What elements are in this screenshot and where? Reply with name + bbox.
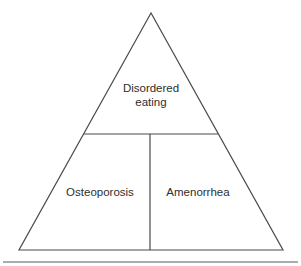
triangle-outline (19, 13, 283, 250)
label-amenorrhea: Amenorrhea (166, 186, 230, 198)
label-osteoporosis: Osteoporosis (66, 186, 134, 198)
label-eating: eating (135, 96, 166, 108)
female-athlete-triad-diagram: Disordered eating Osteoporosis Amenorrhe… (0, 0, 301, 266)
label-disordered: Disordered (123, 82, 179, 94)
